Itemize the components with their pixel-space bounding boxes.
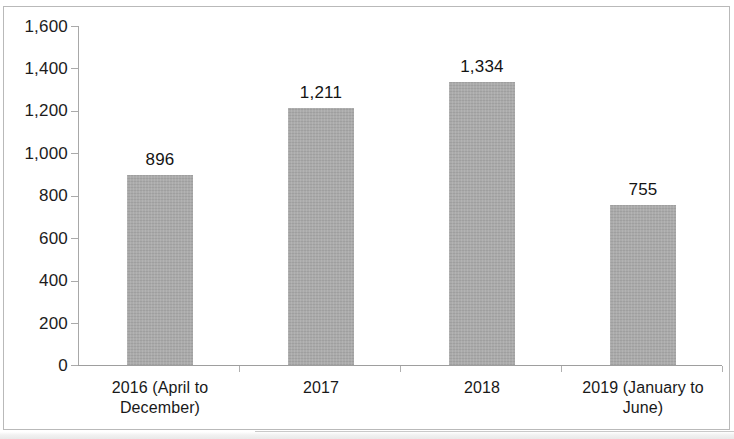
y-axis-tick-label-text: 1,000 xyxy=(6,145,68,162)
x-axis-category-label-2016: 2016 (April to December) xyxy=(80,378,240,418)
x-axis-category-label-line: 2019 (January to xyxy=(563,378,723,398)
x-axis-category-label-line: 2017 xyxy=(241,378,401,398)
bar-2016[interactable] xyxy=(127,175,193,365)
y-axis-tick-label-text: 1,600 xyxy=(6,18,68,35)
y-axis-line xyxy=(78,26,79,366)
y-axis-tick xyxy=(71,238,78,239)
y-axis-tick-label-text: 1,400 xyxy=(6,60,68,77)
x-axis-category-label-2017: 2017 xyxy=(241,378,401,398)
y-axis-tick-label-text: 1,200 xyxy=(6,102,68,119)
scan-artifact-line xyxy=(255,431,734,432)
x-axis-category-label-line: 2018 xyxy=(402,378,562,398)
y-axis-tick xyxy=(71,323,78,324)
x-axis-tick xyxy=(561,366,562,372)
x-axis-category-label-2018: 2018 xyxy=(402,378,562,398)
y-axis-tick-label-text: 800 xyxy=(6,187,68,204)
y-axis-tick-label: 1,600 xyxy=(0,18,68,35)
y-axis-tick-label: 1,000 xyxy=(0,145,68,162)
y-axis-tick-label: 0 xyxy=(0,357,68,374)
bar-2017[interactable] xyxy=(288,108,354,365)
y-axis-tick xyxy=(71,68,78,69)
x-axis-category-label-line: December) xyxy=(80,398,240,418)
y-axis-tick-label: 400 xyxy=(0,272,68,289)
y-axis-tick-label: 1,200 xyxy=(0,102,68,119)
y-axis-tick-label: 200 xyxy=(0,315,68,332)
x-axis-category-label-line: June) xyxy=(563,398,723,418)
x-axis-tick xyxy=(722,366,723,372)
bar-2019[interactable] xyxy=(610,205,676,365)
y-axis-tick xyxy=(71,111,78,112)
y-axis-tick-label-text: 600 xyxy=(6,230,68,247)
x-axis-category-label-2019: 2019 (January to June) xyxy=(563,378,723,418)
y-axis-tick-label-text: 0 xyxy=(6,357,68,374)
y-axis-tick-label-text: 400 xyxy=(6,272,68,289)
y-axis-tick-label: 1,400 xyxy=(0,60,68,77)
x-axis-tick xyxy=(239,366,240,372)
y-axis-tick-label: 600 xyxy=(0,230,68,247)
bar-value-2017: 1,211 xyxy=(271,83,371,102)
scan-artifact xyxy=(0,432,734,439)
y-axis-tick xyxy=(71,365,78,366)
y-axis-tick xyxy=(71,26,78,27)
bar-2018[interactable] xyxy=(449,82,515,365)
bar-value-2019: 755 xyxy=(593,180,693,199)
bar-value-2016: 896 xyxy=(110,150,210,169)
y-axis-tick xyxy=(71,281,78,282)
y-axis-tick xyxy=(71,153,78,154)
x-axis-category-label-line: 2016 (April to xyxy=(80,378,240,398)
y-axis-tick xyxy=(71,196,78,197)
x-axis-tick xyxy=(400,366,401,372)
y-axis-tick-label: 800 xyxy=(0,187,68,204)
bar-chart: 1,600 1,400 1,200 1,000 800 600 400 200 … xyxy=(0,0,734,439)
y-axis-tick-label-text: 200 xyxy=(6,315,68,332)
bar-value-2018: 1,334 xyxy=(432,57,532,76)
